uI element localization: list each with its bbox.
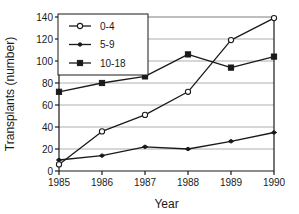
series-5-9	[56, 131, 277, 162]
chart-container: 0204060801001201401985198619871988198919…	[0, 0, 299, 214]
legend-item-label: 5-9	[100, 39, 115, 50]
x-tick-label: 1989	[220, 177, 243, 188]
x-tick-label: 1988	[177, 177, 200, 188]
x-tick-label: 1986	[91, 177, 114, 188]
y-axis-ticks: 020406080100120140	[36, 12, 59, 177]
data-point-marker-filled-square	[228, 65, 233, 70]
data-point-marker-open-circle	[99, 129, 104, 134]
y-tick-label: 120	[36, 34, 53, 45]
x-tick-label: 1987	[134, 177, 157, 188]
legend-item-label: 10-18	[100, 58, 126, 69]
x-axis-title: Year	[154, 197, 178, 211]
y-axis-title: Transplants (number)	[3, 37, 17, 151]
y-tick-label: 140	[36, 12, 53, 23]
data-point-marker-filled-square	[77, 60, 82, 65]
line-chart: 0204060801001201401985198619871988198919…	[0, 0, 299, 214]
data-point-marker-open-circle	[142, 112, 147, 117]
y-tick-label: 40	[42, 122, 54, 133]
data-point-marker-open-circle	[228, 38, 233, 43]
y-tick-label: 100	[36, 56, 53, 67]
data-point-marker-filled-square	[271, 54, 276, 59]
y-tick-label: 80	[42, 78, 54, 89]
y-tick-label: 60	[42, 100, 54, 111]
data-point-marker-open-circle	[77, 23, 82, 28]
data-point-marker-open-circle	[271, 16, 276, 21]
x-tick-label: 1985	[48, 177, 71, 188]
data-point-marker-open-circle	[56, 162, 61, 167]
x-tick-label: 1990	[263, 177, 286, 188]
legend: 0-45-910-18	[58, 14, 148, 75]
series-line	[59, 133, 274, 161]
data-point-marker-filled-square	[56, 89, 61, 94]
y-tick-label: 20	[42, 144, 54, 155]
data-point-marker-open-circle	[185, 89, 190, 94]
data-point-marker-filled-square	[185, 52, 190, 57]
y-tick-label: 0	[47, 166, 53, 177]
x-axis-ticks: 198519861987198819891990	[48, 171, 286, 188]
legend-item-label: 0-4	[100, 21, 115, 32]
data-point-marker-filled-square	[99, 80, 104, 85]
